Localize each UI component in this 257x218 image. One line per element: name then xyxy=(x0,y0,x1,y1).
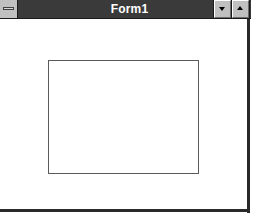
window-frame-bottom[interactable] xyxy=(0,209,250,212)
triangle-down-icon xyxy=(219,7,225,11)
inner-rectangle xyxy=(48,60,199,174)
form1-window: Form1 xyxy=(0,0,251,213)
maximize-button[interactable] xyxy=(232,0,249,18)
client-area xyxy=(0,19,247,209)
title-bar[interactable]: Form1 xyxy=(0,0,251,19)
minimize-button[interactable] xyxy=(214,0,231,18)
window-frame-right[interactable] xyxy=(247,19,250,213)
triangle-up-icon xyxy=(237,6,243,10)
